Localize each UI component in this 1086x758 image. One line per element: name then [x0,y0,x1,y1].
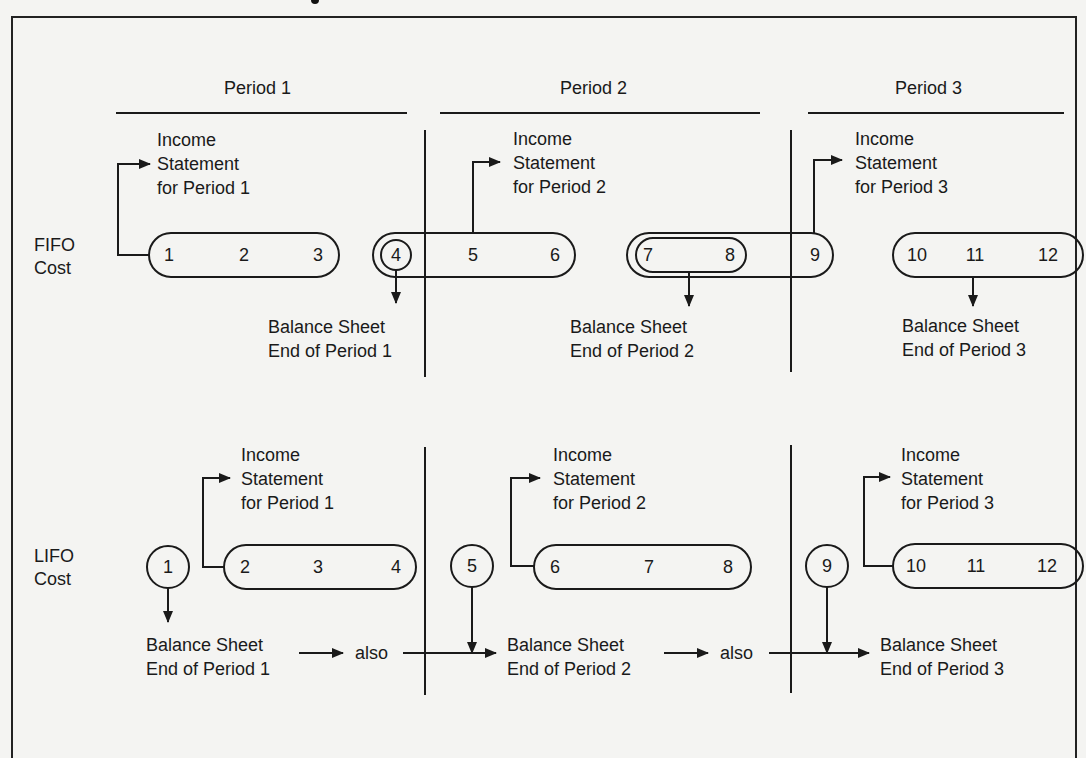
fifo-unit: 6 [540,245,570,265]
lifo-unit: 11 [961,556,991,576]
fifo-unit: 1 [154,245,184,265]
lifo-unit: 10 [901,556,931,576]
lifo-unit: 12 [1032,556,1062,576]
lifo-unit: 7 [634,557,664,577]
lifo-balance-sheet-3: Balance Sheet End of Period 3 [880,633,1004,681]
fifo-unit: 8 [715,245,745,265]
fifo-unit: 12 [1033,245,1063,265]
lifo-label-line2: Cost [34,567,71,591]
lifo-unit: 6 [540,557,570,577]
fifo-income-statement-1: Income Statement for Period 1 [157,128,250,200]
fifo-income-statement-3: Income Statement for Period 3 [855,127,948,199]
lifo-unit: 5 [457,556,487,576]
fifo-unit: 4 [381,245,411,265]
fifo-balance-sheet-3: Balance Sheet End of Period 3 [902,314,1026,362]
period-2-header: Period 2 [560,76,627,100]
lifo-balance-sheet-1: Balance Sheet End of Period 1 [146,633,270,681]
fifo-balance-sheet-1: Balance Sheet End of Period 1 [268,315,392,363]
lifo-balance-sheet-2: Balance Sheet End of Period 2 [507,633,631,681]
fifo-unit: 7 [633,245,663,265]
period-3-header: Period 3 [895,76,962,100]
fifo-unit: 9 [800,245,830,265]
lifo-label-line1: LIFO [34,544,74,568]
lifo-unit: 1 [153,557,183,577]
lifo-income-statement-2: Income Statement for Period 2 [553,443,646,515]
also-connector-1: also [355,641,388,665]
also-connector-2: also [720,641,753,665]
lifo-unit: 8 [713,557,743,577]
lifo-income-statement-3: Income Statement for Period 3 [901,443,994,515]
fifo-unit: 11 [960,245,990,265]
lifo-unit: 9 [812,556,842,576]
period-1-header: Period 1 [224,76,291,100]
fifo-unit: 5 [458,245,488,265]
fifo-balance-sheet-2: Balance Sheet End of Period 2 [570,315,694,363]
lifo-income-statement-1: Income Statement for Period 1 [241,443,334,515]
fifo-unit: 2 [229,245,259,265]
fifo-label-line2: Cost [34,256,71,280]
fifo-unit: 3 [303,245,333,265]
fifo-label-line1: FIFO [34,233,75,257]
fifo-unit: 10 [902,245,932,265]
lifo-unit: 2 [230,557,260,577]
lifo-unit: 3 [303,557,333,577]
lifo-unit: 4 [381,557,411,577]
fifo-income-statement-2: Income Statement for Period 2 [513,127,606,199]
